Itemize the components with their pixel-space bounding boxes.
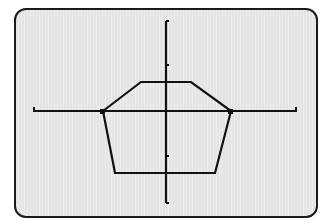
graph-plot — [0, 0, 323, 224]
vertex-marker — [100, 109, 105, 114]
vertex-marker — [228, 109, 233, 114]
axes — [34, 21, 296, 203]
